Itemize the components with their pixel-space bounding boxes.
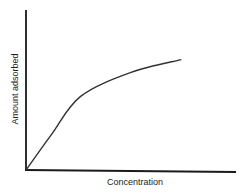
adsorption-chart <box>0 0 248 195</box>
x-axis-label: Concentration <box>107 177 163 187</box>
x-axis <box>25 170 236 172</box>
y-axis-label: Amount adsorbed <box>10 53 20 124</box>
adsorption-curve <box>26 60 181 170</box>
